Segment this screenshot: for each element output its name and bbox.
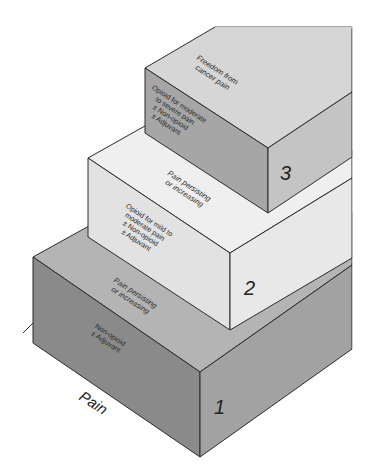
step-2-number: 2 (243, 277, 255, 299)
analgesic-ladder-diagram: Freedom from cancer pain Opioid for mode… (0, 0, 371, 474)
axis-tick (23, 323, 33, 333)
step-3-number: 3 (280, 162, 291, 184)
step-1-number: 1 (214, 396, 225, 418)
